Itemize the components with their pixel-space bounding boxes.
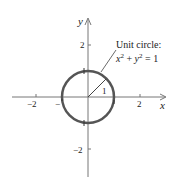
annotation-equation: x2 + y2 = 1 (115, 52, 158, 64)
eq-rhs: = 1 (143, 53, 159, 64)
x-tick-label-neg1: − (55, 99, 60, 109)
x-tick-label-neg2: −2 (27, 99, 37, 109)
radius-label: 1 (102, 86, 107, 96)
y-axis-label: y (77, 15, 83, 27)
unit-circle-diagram: 1 −2 − 2 x 2 −2 y Unit circle: x2 + y2 =… (0, 0, 179, 184)
annotation-title: Unit circle: (116, 39, 161, 50)
y-tick-label-neg2: −2 (73, 145, 83, 155)
y-tick-label-2: 2 (80, 40, 85, 50)
eq-plus: + (124, 53, 135, 64)
annotation-leader-line (101, 50, 116, 72)
x-tick-label-2: 2 (137, 99, 142, 109)
x-axis-label: x (159, 99, 165, 111)
